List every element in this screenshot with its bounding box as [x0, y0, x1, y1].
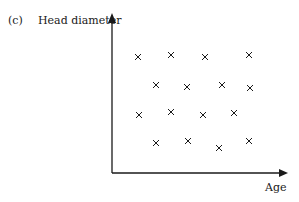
x-marker-icon: [231, 110, 237, 116]
x-marker-icon: [136, 112, 142, 118]
x-marker-icon: [153, 140, 159, 146]
x-marker-icon: [168, 52, 174, 58]
x-axis-arrow-icon: [279, 169, 288, 177]
x-marker-icon: [219, 82, 225, 88]
y-axis-arrow-icon: [108, 13, 116, 23]
data-points: [135, 52, 253, 151]
x-marker-icon: [246, 52, 252, 58]
x-marker-icon: [200, 112, 206, 118]
x-marker-icon: [185, 138, 191, 144]
x-marker-icon: [135, 54, 141, 60]
scatter-plot: [0, 0, 299, 202]
x-marker-icon: [153, 82, 159, 88]
x-marker-icon: [216, 145, 222, 151]
x-axis: [112, 169, 288, 177]
x-marker-icon: [246, 138, 252, 144]
x-marker-icon: [168, 109, 174, 115]
x-marker-icon: [202, 54, 208, 60]
x-marker-icon: [247, 85, 253, 91]
y-axis: [108, 13, 116, 173]
x-marker-icon: [184, 84, 190, 90]
